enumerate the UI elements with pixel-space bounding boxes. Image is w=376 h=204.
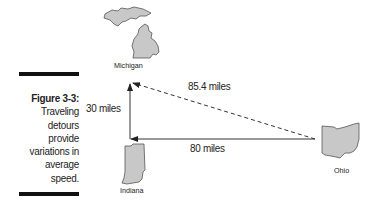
michigan-map-icon — [104, 7, 159, 58]
route-diagram — [0, 0, 376, 204]
michigan-label: Michigan — [114, 61, 143, 70]
ohio-map-icon — [322, 123, 359, 158]
horizontal-distance-label: 80 miles — [190, 142, 225, 154]
diagonal-distance-label: 85.4 miles — [188, 80, 230, 92]
indiana-map-icon — [122, 144, 145, 184]
indiana-label: Indiana — [120, 186, 144, 195]
ohio-label: Ohio — [334, 166, 349, 175]
vertical-distance-label: 30 miles — [86, 102, 121, 114]
